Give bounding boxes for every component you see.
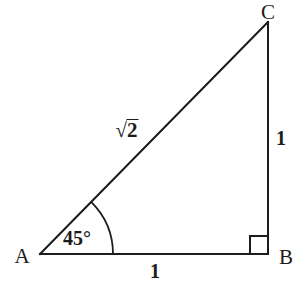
geometry-figure: A B C 1 1 √2 45° [0,0,305,287]
vertex-label-a: A [14,246,29,267]
radicand-value: 2 [126,119,139,141]
angle-arc-a [92,202,113,254]
vertex-label-c: C [261,2,275,23]
right-angle-marker [250,236,268,254]
side-label-base: 1 [150,261,160,281]
triangle-drawing [0,0,305,287]
vertex-label-b: B [279,247,293,268]
angle-label-a: 45° [63,228,91,248]
side-label-hypotenuse: √2 [115,119,138,141]
side-label-vertical: 1 [276,128,286,148]
triangle-side-hypotenuse [40,22,268,254]
